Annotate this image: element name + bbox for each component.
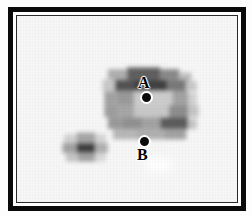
heatmap-cell (96, 134, 106, 143)
heatmap-cell (172, 91, 188, 105)
heatmap-cell (160, 69, 179, 79)
faint-patch-group (146, 158, 170, 172)
heatmap-cell (143, 117, 160, 129)
heatmap-cell (104, 105, 118, 117)
heatmap-cell (164, 129, 187, 139)
heatmap-cell (186, 81, 196, 91)
heatmap-cell (76, 143, 95, 153)
heatmap-cell (103, 79, 115, 91)
marker-label-b: B (137, 147, 148, 163)
heatmap-cell (113, 129, 136, 139)
heatmap-cell (78, 153, 95, 162)
figure-container: A B (0, 0, 252, 217)
heatmap-cell (188, 119, 197, 129)
heatmap-cell (64, 134, 76, 143)
heatmap-cell (76, 133, 95, 143)
heatmap-cell (118, 105, 134, 117)
heatmap-cell (115, 79, 134, 91)
heatmap-cell (134, 105, 169, 117)
marker-a[interactable] (140, 91, 153, 104)
heatmap-cell (167, 79, 186, 91)
heatmap-cell (146, 158, 170, 172)
heatmap-cell (108, 69, 127, 79)
heatmap-cell (96, 153, 106, 162)
heatmap-cell (66, 153, 78, 162)
heatmap-cell (62, 143, 76, 153)
heatmap-cell (169, 105, 188, 117)
heatmap-cell (160, 117, 188, 129)
figure-inner-frame: A B (16, 15, 238, 203)
heatmap-cell (104, 91, 116, 105)
heatmap-cell (122, 117, 143, 129)
marker-label-a: A (138, 75, 150, 91)
intensity-heatmap (17, 16, 237, 202)
heatmap-cell (188, 93, 197, 105)
heatmap-cell (96, 143, 108, 153)
figure-outer-frame: A B (8, 7, 246, 211)
heatmap-cell (108, 117, 122, 129)
image-canvas (17, 16, 237, 202)
heatmap-cell (188, 105, 198, 117)
heatmap-cell (117, 91, 134, 105)
